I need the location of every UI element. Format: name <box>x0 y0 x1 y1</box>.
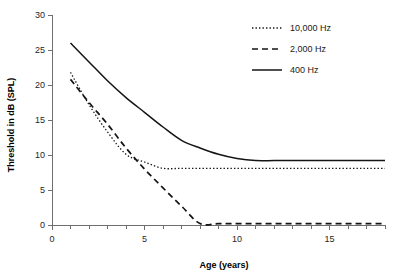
x-tick-label: 10 <box>232 234 242 244</box>
y-tick-label: 10 <box>35 150 45 160</box>
y-axis-title: Threshold in dB (SPL) <box>6 78 16 173</box>
y-tick-label: 5 <box>40 185 45 195</box>
legend-label: 10,000 Hz <box>290 23 332 33</box>
x-tick-label: 0 <box>49 234 54 244</box>
line-chart: 051015202530 051015 10,000 Hz2,000 Hz400… <box>0 0 397 276</box>
y-tick-label: 0 <box>40 220 45 230</box>
x-axis-title: Age (years) <box>199 260 248 270</box>
legend-label: 400 Hz <box>290 65 319 75</box>
y-tick-label: 15 <box>35 115 45 125</box>
x-tick-label: 15 <box>324 234 334 244</box>
y-tick-label: 20 <box>35 80 45 90</box>
x-tick-label: 5 <box>142 234 147 244</box>
chart-figure: 051015202530 051015 10,000 Hz2,000 Hz400… <box>0 0 397 276</box>
chart-background <box>0 0 397 276</box>
y-tick-label: 30 <box>35 10 45 20</box>
legend-label: 2,000 Hz <box>290 44 327 54</box>
y-tick-label: 25 <box>35 45 45 55</box>
